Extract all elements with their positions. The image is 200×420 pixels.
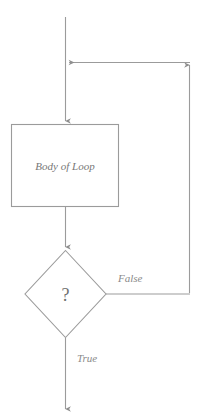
flowchart-svg: Body of Loop ? False True — [0, 0, 200, 420]
flowchart-canvas: Body of Loop ? False True — [0, 0, 200, 420]
process-box-label: Body of Loop — [35, 160, 95, 172]
false-branch-label: False — [117, 272, 143, 284]
true-branch-label: True — [77, 352, 97, 364]
decision-diamond-label: ? — [62, 285, 70, 305]
